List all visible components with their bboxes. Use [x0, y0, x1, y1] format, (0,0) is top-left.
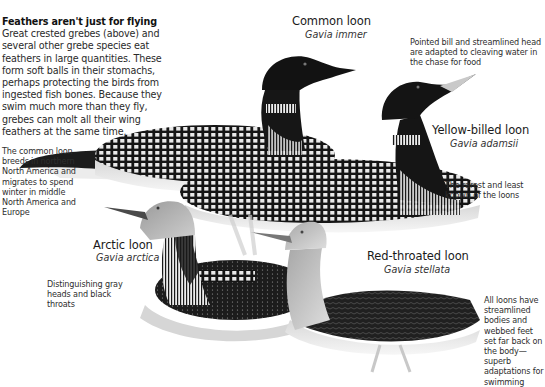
intro-paragraph: Feathers aren't just for flying Great cr… [2, 16, 170, 138]
intro-body: Great crested grebes (above) and several… [2, 28, 162, 137]
common-loon-name: Common loon [292, 14, 371, 28]
bill-note: Pointed bill and streamlined head are ad… [410, 37, 542, 68]
arctic-loon-note: Distinguishing gray heads and black thro… [47, 279, 137, 310]
rarest-note: The rarest and least known of the loons [445, 180, 545, 200]
common-loon-latin: Gavia immer [305, 29, 367, 40]
intro-heading: Feathers aren't just for flying [2, 16, 157, 27]
red-throated-loon-latin: Gavia stellata [384, 264, 450, 275]
common-loon-range-note: The common loon breeds in northern North… [2, 146, 82, 217]
arctic-loon-latin: Gavia arctica [96, 252, 159, 263]
yellow-billed-loon-name: Yellow-billed loon [432, 123, 529, 137]
arctic-loon-name: Arctic loon [93, 238, 153, 252]
red-throated-loon-name: Red-throated loon [367, 249, 469, 263]
yellow-billed-loon-latin: Gavia adamsii [450, 138, 518, 149]
adaptation-note: All loons have streamlined bodies and we… [484, 295, 544, 387]
